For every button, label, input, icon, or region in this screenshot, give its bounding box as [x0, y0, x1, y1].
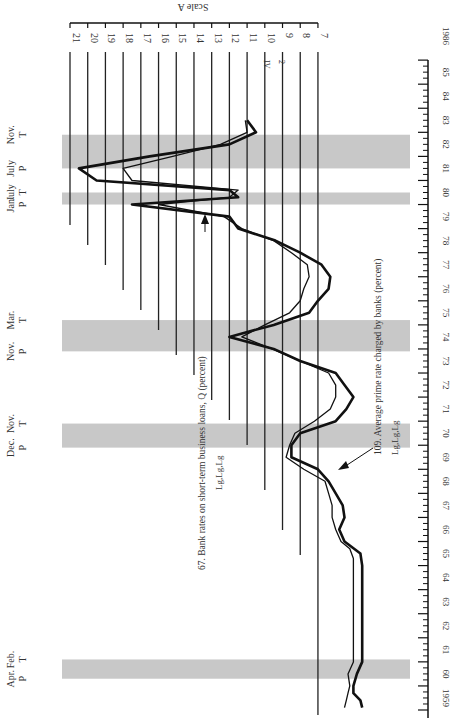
recession-turn-label: T: [17, 656, 28, 662]
year-tick-label: 77: [441, 260, 451, 270]
scale-tick-label: 17: [142, 33, 153, 43]
scale-tick-label: 10: [266, 33, 277, 43]
scale-tick-label: 14: [195, 33, 206, 43]
scale-tick-label: 21: [71, 33, 82, 43]
scale-tick-label: 19: [106, 33, 117, 43]
recession-month-label: Nov.: [5, 342, 16, 361]
series-109-line: [79, 120, 362, 707]
recession-month-label: Nov.: [5, 125, 16, 144]
scale-tick-label: 18: [124, 33, 135, 43]
year-tick-label: 64: [441, 573, 451, 583]
chart-canvas: 212019181716151413121110987Scale A 19596…: [0, 0, 460, 725]
year-tick-label: 74: [441, 332, 451, 342]
year-tick-label: 61: [441, 645, 451, 654]
scale-tick-label: 11: [248, 33, 259, 43]
recession-turn-label: P: [17, 165, 28, 171]
year-tick-label: 60: [441, 669, 451, 679]
year-tick-label: 66: [441, 525, 451, 535]
year-tick-label: 70: [441, 429, 451, 439]
year-tick-label: 63: [441, 597, 451, 607]
recession-month-label: Mar.: [5, 311, 16, 330]
rotated-line-chart: 212019181716151413121110987Scale A 19596…: [0, 0, 460, 725]
scale-tick-label: 7: [319, 33, 330, 38]
recession-turn-label: T: [17, 132, 28, 138]
recession-month-label: Apr.: [5, 670, 16, 688]
recession-turn-label: P: [17, 444, 28, 450]
series-67-label: 67. Bank rates on short-term business lo…: [197, 356, 208, 570]
recession-month-label: Feb.: [5, 651, 16, 669]
year-tick-label: 67: [441, 501, 451, 511]
year-tick-label: 84: [441, 92, 451, 102]
scale-a-axis: 212019181716151413121110987Scale A: [70, 2, 330, 43]
year-axis: 1959606162636465666768697071727374757677…: [418, 27, 451, 718]
scale-tick-label: 12: [230, 33, 241, 43]
year-tick-label: 81: [441, 164, 451, 173]
scale-tick-label: 13: [213, 33, 224, 43]
recession-turn-label: P: [17, 348, 28, 354]
recession-month-label: July: [5, 160, 16, 177]
year-tick-label: 62: [441, 621, 451, 630]
recession-band: [62, 424, 410, 448]
scale-tick-label: 9: [284, 33, 295, 38]
series-67-code: Lg,Lg,Lg: [214, 455, 224, 490]
recession-month-label: July: [5, 184, 16, 201]
year-tick-label: 76: [441, 284, 451, 294]
scale-tick-label: 20: [89, 33, 100, 43]
data-series: [79, 120, 362, 707]
recession-bands: [62, 135, 410, 679]
year-tick-label: 73: [441, 356, 451, 366]
year-tick-label: 80: [441, 188, 451, 198]
year-tick-label: 75: [441, 308, 451, 318]
scale-tick-label: 15: [177, 33, 188, 43]
year-tick-label: 72: [441, 381, 451, 390]
recession-turn-label: T: [17, 189, 28, 195]
year-tick-label: 1959: [441, 689, 451, 708]
recession-month-label: Nov.: [5, 414, 16, 433]
recession-month-label: Dec.: [5, 438, 16, 457]
two-label: 2: [277, 60, 286, 64]
recession-turn-label: T: [17, 421, 28, 427]
recession-labels: PApr.TFeb.PDec.TNov.PNov.TMar.PJan.TJuly…: [5, 125, 28, 687]
recession-turn-label: T: [17, 317, 28, 323]
iv-label: IV: [262, 60, 271, 69]
year-tick-label: 1986: [441, 27, 451, 46]
recession-turn-label: P: [17, 675, 28, 681]
year-tick-label: 82: [441, 140, 451, 149]
year-tick-label: 71: [441, 405, 451, 414]
year-tick-label: 78: [441, 236, 451, 246]
year-tick-label: 85: [441, 68, 451, 78]
scale-tick-label: 16: [160, 33, 171, 43]
year-tick-label: 69: [441, 453, 451, 463]
series-109-code: Lg,Lg,Lg: [390, 420, 400, 455]
year-tick-label: 79: [441, 212, 451, 222]
year-tick-label: 83: [441, 116, 451, 126]
year-tick-label: 68: [441, 477, 451, 487]
year-tick-label: 65: [441, 549, 451, 559]
series-109-label: 109. Average prime rate charged by banks…: [373, 259, 384, 455]
scale-tick-label: 8: [301, 33, 312, 38]
recession-turn-label: P: [17, 201, 28, 207]
scale-a-label: Scale A: [177, 2, 209, 13]
